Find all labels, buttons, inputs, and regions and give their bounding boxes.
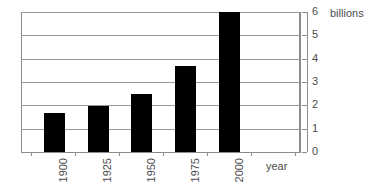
bar	[131, 94, 152, 152]
x-axis-tick-label: 1900	[58, 158, 69, 182]
y-axis-tick	[302, 59, 307, 60]
y-axis-tick-label: 4	[312, 53, 318, 64]
bar	[44, 113, 65, 152]
y-axis-unit-label: billions	[330, 7, 364, 19]
x-axis-tick-label: 1975	[190, 158, 201, 182]
x-axis-line	[21, 152, 301, 153]
y-axis-tick	[302, 12, 307, 13]
bar	[175, 66, 196, 152]
bar	[219, 12, 240, 152]
y-axis-tick	[302, 82, 307, 83]
x-axis-tick-label: 2000	[234, 158, 245, 182]
x-axis-tick	[163, 152, 164, 156]
x-axis-tick	[295, 152, 296, 156]
x-axis-tick	[31, 152, 32, 156]
x-axis-tick	[75, 152, 76, 156]
y-axis-tick-label: 1	[312, 123, 318, 134]
x-axis-title: year	[266, 160, 287, 172]
x-axis-tick-label: 1925	[102, 158, 113, 182]
y-axis-tick	[302, 35, 307, 36]
x-axis-tick-label: 1950	[146, 158, 157, 182]
bars-group	[22, 12, 299, 152]
y-axis-tick-label: 2	[312, 99, 318, 110]
y-axis-tick	[302, 152, 307, 153]
x-axis-tick	[119, 152, 120, 156]
bar	[88, 106, 109, 152]
y-axis-tick	[302, 105, 307, 106]
y-axis-tick-label: 6	[312, 6, 318, 17]
x-axis-tick	[207, 152, 208, 156]
y-axis-tick-label: 5	[312, 29, 318, 40]
bar-chart-figure: 0123456 billions 19001925195019752000 ye…	[0, 0, 378, 188]
x-axis-tick	[251, 152, 252, 156]
y-axis-tick	[302, 129, 307, 130]
y-axis-tick-label: 0	[312, 146, 318, 157]
y-axis-tick-label: 3	[312, 76, 318, 87]
plot-area	[21, 12, 300, 152]
